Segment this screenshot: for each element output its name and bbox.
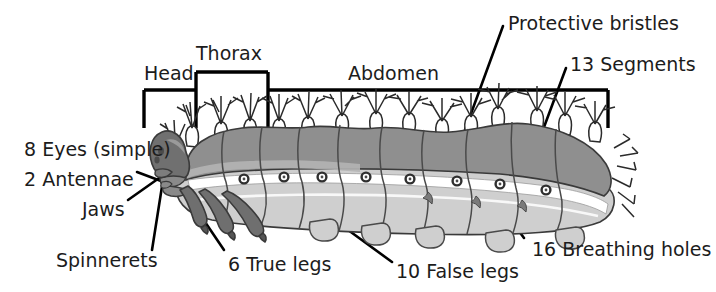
spiracle <box>404 173 415 184</box>
spiracle <box>360 171 371 182</box>
label-antennae: 2 Antennae <box>24 170 134 189</box>
spiracle <box>451 175 462 186</box>
bristle-tuft <box>389 91 428 133</box>
label-false-legs: 10 False legs <box>396 262 519 281</box>
spiracle <box>540 184 551 195</box>
label-true-legs: 6 True legs <box>228 255 331 274</box>
label-breathing-holes: 16 Breathing holes <box>532 240 711 259</box>
false-leg <box>310 219 339 241</box>
bracket-label-abdomen: Abdomen <box>348 64 439 83</box>
bracket-label-thorax: Thorax <box>196 44 262 63</box>
label-protective-bristles: Protective bristles <box>508 14 679 33</box>
spiracle <box>494 178 505 189</box>
label-spinnerets: Spinnerets <box>56 251 158 270</box>
spiracle <box>316 171 327 182</box>
false-leg <box>362 223 391 245</box>
bristle-tuft <box>357 89 396 132</box>
false-leg <box>486 230 515 252</box>
diagram-canvas: Head Thorax Abdomen Protective bristles … <box>0 0 716 292</box>
label-eyes: 8 Eyes (simple) <box>24 140 171 159</box>
leader-spinnerets <box>152 180 163 250</box>
bristle-tuft <box>612 134 638 217</box>
spiracle <box>278 171 289 182</box>
label-segments: 13 Segments <box>570 55 696 74</box>
bracket-label-head: Head <box>144 64 194 83</box>
false-leg <box>416 226 445 248</box>
label-jaws: Jaws <box>82 200 125 219</box>
spiracle <box>238 173 249 184</box>
